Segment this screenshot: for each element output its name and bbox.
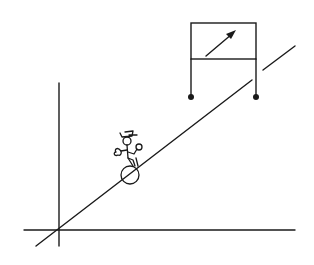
incline-line <box>36 80 252 246</box>
figure-arm-right <box>128 149 137 154</box>
figure-ball <box>136 144 142 150</box>
figure-head <box>123 137 131 145</box>
meter-box <box>191 23 256 97</box>
incline-line-extension <box>263 46 295 70</box>
figure-body <box>127 145 133 166</box>
meter-needle-arrow <box>206 34 232 56</box>
wheel <box>121 166 139 184</box>
meter-terminal-right <box>253 94 259 100</box>
figure-flower <box>114 149 121 156</box>
figure-arm <box>121 150 127 151</box>
diagram-canvas <box>0 0 314 265</box>
meter-terminal-left <box>188 94 194 100</box>
figure-hat <box>120 131 137 137</box>
